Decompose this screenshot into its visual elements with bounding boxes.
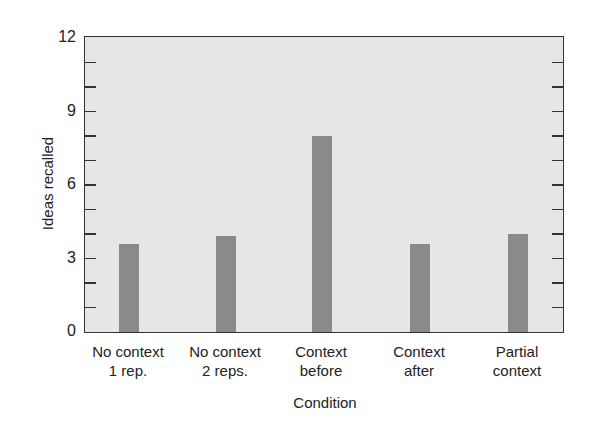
x-tick-label: No context1 rep. [78, 342, 178, 380]
y-tick-right [552, 62, 563, 64]
bar: 3.6 [410, 244, 430, 332]
y-tick-right [552, 258, 563, 260]
y-tick-left [85, 135, 96, 137]
y-tick-right [552, 209, 563, 211]
y-tick-label: 0 [46, 323, 76, 339]
y-tick-left [85, 160, 96, 162]
y-tick-right [552, 184, 563, 186]
bar: 3.9 [216, 236, 236, 332]
bar: 3.6 [119, 244, 139, 332]
y-tick-right [552, 86, 563, 88]
y-tick-left [85, 184, 96, 186]
y-tick-right [552, 233, 563, 235]
x-tick-label: No context2 reps. [175, 342, 275, 380]
y-tick-left [85, 307, 96, 309]
y-tick-label: 6 [46, 176, 76, 192]
y-tick-right [552, 111, 563, 113]
y-tick-right [552, 135, 563, 137]
x-axis-title: Condition [0, 394, 595, 411]
x-tick-label: Partialcontext [467, 342, 567, 380]
y-tick-left [85, 209, 96, 211]
y-tick-left [85, 233, 96, 235]
y-tick-left [85, 282, 96, 284]
bar: 8 [312, 136, 332, 332]
y-tick-right [552, 307, 563, 309]
y-tick-label: 3 [46, 250, 76, 266]
y-tick-label: 9 [46, 103, 76, 119]
y-tick-left [85, 111, 96, 113]
y-tick-left [85, 86, 96, 88]
plot-area: 3.63.983.64 [84, 36, 564, 333]
y-tick-left [85, 258, 96, 260]
y-tick-right [552, 160, 563, 162]
y-tick-left [85, 62, 96, 64]
x-tick-label: Contextafter [369, 342, 469, 380]
y-tick-label: 12 [46, 29, 76, 45]
x-tick-label: Contextbefore [271, 342, 371, 380]
bar: 4 [508, 234, 528, 332]
y-tick-right [552, 282, 563, 284]
